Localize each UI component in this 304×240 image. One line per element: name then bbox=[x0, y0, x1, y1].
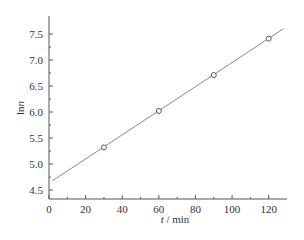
x-axis-label: t / min bbox=[161, 213, 190, 225]
x-tick-label: 80 bbox=[190, 203, 202, 215]
data-point bbox=[101, 145, 106, 150]
chart: 0204060801001204.55.05.56.06.57.07.5 t /… bbox=[0, 0, 304, 240]
data-point bbox=[266, 36, 271, 41]
y-tick-label: 5.5 bbox=[29, 132, 43, 144]
y-tick-label: 7.0 bbox=[29, 54, 43, 66]
y-tick-label: 6.0 bbox=[29, 106, 43, 118]
y-tick-label: 5.0 bbox=[29, 158, 43, 170]
y-tick-label: 4.5 bbox=[29, 184, 43, 196]
y-tick-label: 6.5 bbox=[29, 80, 43, 92]
data-point bbox=[211, 73, 216, 78]
x-tick-label: 40 bbox=[117, 203, 129, 215]
plot-area bbox=[53, 29, 284, 181]
x-tick-label: 120 bbox=[260, 203, 277, 215]
x-tick-label: 20 bbox=[80, 203, 92, 215]
data-point bbox=[156, 108, 161, 113]
axes: 0204060801001204.55.05.56.06.57.07.5 bbox=[29, 16, 287, 215]
x-tick-label: 0 bbox=[46, 203, 52, 215]
fit-line bbox=[53, 29, 284, 181]
y-axis-label: lnn bbox=[14, 100, 26, 115]
x-tick-label: 100 bbox=[224, 203, 241, 215]
y-tick-label: 7.5 bbox=[29, 28, 43, 40]
